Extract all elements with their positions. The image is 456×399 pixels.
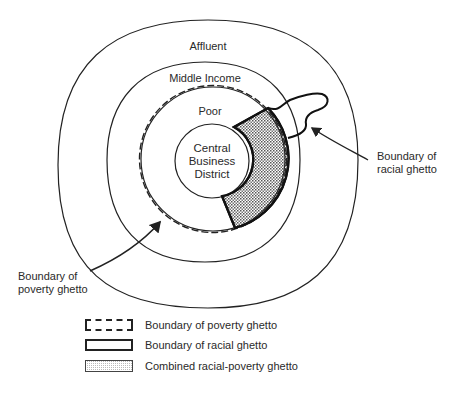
stipple-swatch-icon: [85, 360, 133, 372]
legend-item-racial: Boundary of racial ghetto: [85, 338, 267, 352]
poverty-callout-arrow: [90, 222, 160, 271]
zone-label-poor: Poor: [190, 105, 230, 118]
zone-label-cbd: Central Business District: [180, 142, 244, 181]
dashed-swatch-icon: [85, 319, 133, 331]
legend-item-poverty: Boundary of poverty ghetto: [85, 318, 277, 332]
zone-label-affluent: Affluent: [178, 40, 238, 53]
zone-label-middle-income: Middle Income: [160, 72, 250, 85]
callout-racial-ghetto: Boundary of racial ghetto: [377, 150, 437, 176]
racial-callout-arrow: [312, 128, 368, 160]
callout-poverty-ghetto: Boundary of poverty ghetto: [18, 270, 88, 296]
solid-swatch-icon: [85, 339, 133, 351]
legend-item-combined: Combined racial-poverty ghetto: [85, 359, 298, 373]
